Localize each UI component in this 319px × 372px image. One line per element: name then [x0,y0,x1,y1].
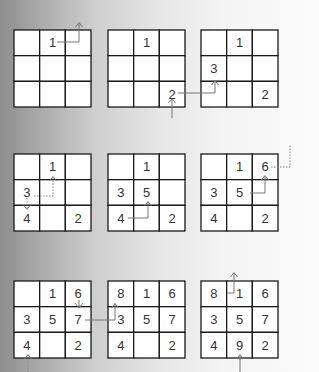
grid-cell [40,332,66,358]
grid-cell [201,154,227,180]
cell-number: 7 [169,312,176,327]
grid-cell [227,81,253,107]
grid-cell [14,154,40,180]
cell-number: 5 [49,312,56,327]
cell-number: 2 [169,211,176,226]
magic-square-panel-step-6: 163542 [201,154,278,231]
cell-number: 2 [169,338,176,353]
cell-number: 3 [210,61,217,76]
cell-number: 2 [262,211,269,226]
grid-cell [40,56,66,82]
cell-number: 8 [117,286,124,301]
cell-number: 4 [117,338,124,353]
cell-number: 2 [75,211,82,226]
cell-number: 3 [117,312,124,327]
cell-number: 4 [210,338,217,353]
cell-number: 2 [262,338,269,353]
cell-number: 1 [143,35,150,50]
cell-number: 2 [75,338,82,353]
grid-cell [14,281,40,307]
cell-number: 5 [143,312,150,327]
cell-number: 4 [23,338,30,353]
cell-number: 2 [262,87,269,102]
cell-number: 6 [169,286,176,301]
cell-number: 4 [117,211,124,226]
cell-number: 6 [262,159,269,174]
cell-number: 7 [75,312,82,327]
cell-number: 8 [210,286,217,301]
cell-number: 1 [49,35,56,50]
grid-cell [65,81,91,107]
grid-cell [252,56,278,82]
magic-square-panel-step-2: 12 [108,30,185,107]
cell-number: 1 [236,286,243,301]
grid-cell [14,30,40,56]
grid-cell [65,180,91,206]
cell-number: 5 [236,185,243,200]
magic-square-panel-step-3: 132 [201,30,278,107]
magic-square-panel-step-7: 1635742 [14,281,91,358]
cell-number: 9 [236,338,243,353]
cell-number: 3 [210,312,217,327]
grid-cell [108,30,134,56]
grid-cell [201,81,227,107]
grid-cell [108,154,134,180]
grid-cell [134,81,160,107]
cell-number: 1 [236,35,243,50]
grid-cell [108,81,134,107]
grid-cell [65,56,91,82]
magic-square-panel-step-9: 816357492 [201,281,278,358]
cell-number: 5 [236,312,243,327]
cell-number: 1 [49,286,56,301]
cell-number: 1 [143,159,150,174]
cell-number: 1 [236,159,243,174]
grid-cell [40,81,66,107]
cell-number: 3 [23,312,30,327]
cell-number: 3 [117,185,124,200]
grid-cell [65,154,91,180]
grid-cell [134,332,160,358]
grid-cell [159,180,185,206]
cell-number: 7 [262,312,269,327]
grid-cell [227,205,253,231]
grid-cell [65,30,91,56]
magic-square-diagram: 1121321342135421635421635742816357428163… [0,0,298,372]
cell-number: 6 [262,286,269,301]
grid-cell [201,30,227,56]
grid-cell [14,56,40,82]
grid-cell [159,30,185,56]
cell-number: 1 [49,159,56,174]
grid-cell [40,205,66,231]
cell-number: 3 [23,185,30,200]
grid-cell [108,56,134,82]
cell-number: 5 [143,185,150,200]
cell-number: 4 [23,211,30,226]
grid-cell [252,30,278,56]
cell-number: 1 [143,286,150,301]
magic-square-panel-step-8: 81635742 [108,281,185,358]
grid-cell [14,81,40,107]
grid-cell [134,56,160,82]
grid-cell [227,56,253,82]
grid-cell [159,56,185,82]
cell-number: 4 [210,211,217,226]
grid-cell [159,154,185,180]
cell-number: 6 [75,286,82,301]
magic-square-panel-step-5: 13542 [108,154,185,231]
cell-number: 3 [210,185,217,200]
